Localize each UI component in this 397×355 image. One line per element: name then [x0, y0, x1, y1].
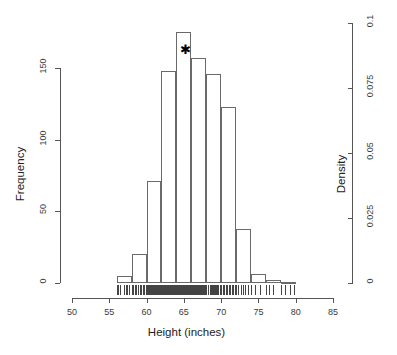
height-tick: [72, 298, 73, 303]
histogram-bar: [236, 229, 251, 283]
rug-tick: [285, 285, 286, 295]
rug-tick: [238, 285, 239, 295]
density-tick: [348, 218, 353, 219]
density-tick: [348, 23, 353, 24]
rug-tick: [136, 285, 137, 295]
height-tick: [333, 298, 334, 303]
height-tick: [184, 298, 185, 303]
height-tick-label: 55: [94, 307, 124, 317]
height-tick: [109, 298, 110, 303]
frequency-tick-label: 100: [38, 123, 48, 153]
rug-tick: [266, 285, 267, 295]
rug-tick: [281, 285, 282, 295]
histogram-bar: [132, 254, 147, 283]
histogram-bar: [251, 274, 266, 283]
height-axis-line: [72, 298, 333, 299]
height-axis-title: Height (inches): [0, 326, 373, 338]
frequency-tick: [55, 140, 60, 141]
rug-tick: [245, 285, 246, 295]
density-tick-label: 0: [365, 264, 375, 298]
height-tick-label: 50: [57, 307, 87, 317]
rug-tick: [243, 285, 244, 295]
rug-tick: [129, 285, 130, 295]
frequency-tick-label: 0: [38, 266, 48, 296]
frequency-tick: [55, 68, 60, 69]
histogram-bar: [147, 181, 162, 283]
rug-tick: [273, 285, 274, 295]
star-marker: ✱: [180, 43, 191, 56]
density-tick: [348, 283, 353, 284]
rug-tick: [241, 285, 242, 295]
rug-tick: [260, 285, 261, 295]
density-tick: [348, 153, 353, 154]
histogram-bar: [266, 280, 281, 283]
frequency-tick: [55, 211, 60, 212]
height-tick-label: 70: [206, 307, 236, 317]
histogram-bar: [191, 58, 206, 283]
rug-tick: [290, 285, 291, 295]
density-tick-label: 0.075: [365, 69, 375, 103]
density-tick: [348, 88, 353, 89]
height-tick-label: 75: [243, 307, 273, 317]
histogram-bar: [176, 32, 191, 283]
rug-tick: [251, 285, 252, 295]
density-tick-label: 0.05: [365, 134, 375, 168]
density-tick-label: 0.1: [365, 4, 375, 38]
height-tick: [221, 298, 222, 303]
rug-tick: [269, 285, 270, 295]
rug-tick: [294, 285, 295, 295]
height-tick-label: 80: [281, 307, 311, 317]
rug-tick: [255, 285, 256, 295]
frequency-tick: [55, 283, 60, 284]
rug-tick: [248, 285, 249, 295]
height-tick: [147, 298, 148, 303]
histogram-bar: [161, 71, 176, 283]
height-tick-label: 65: [169, 307, 199, 317]
histogram-bar: [206, 74, 221, 283]
density-tick-label: 0.025: [365, 199, 375, 233]
height-tick-label: 60: [132, 307, 162, 317]
density-axis-title: Density: [335, 139, 347, 209]
height-tick: [296, 298, 297, 303]
frequency-tick-label: 150: [38, 51, 48, 81]
histogram-bar: [281, 282, 296, 284]
height-tick-label: 85: [318, 307, 348, 317]
histogram-bar: [117, 276, 132, 283]
rug-tick: [120, 285, 121, 295]
rug-tick: [118, 285, 119, 295]
height-tick: [258, 298, 259, 303]
frequency-axis-title: Frequency: [14, 139, 26, 209]
rug-tick: [236, 285, 237, 295]
histogram-bar: [221, 107, 236, 283]
frequency-axis-line: [60, 68, 61, 283]
histogram-chart: 050100150Frequency00.0250.050.0750.1Dens…: [0, 0, 397, 355]
frequency-tick-label: 50: [38, 194, 48, 224]
